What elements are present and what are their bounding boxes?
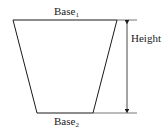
- trapezoid-diagram: Base1 Base2 Height: [0, 0, 168, 130]
- bottom-base-label: Base2: [54, 115, 79, 129]
- trapezoid-shape: [13, 20, 117, 113]
- top-base-label: Base1: [54, 5, 79, 19]
- height-label: Height: [131, 32, 161, 44]
